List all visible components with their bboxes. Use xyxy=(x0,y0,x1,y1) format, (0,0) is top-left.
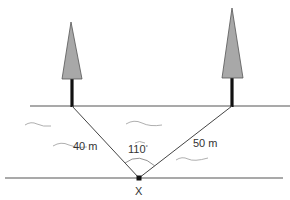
wave-mark xyxy=(176,158,208,161)
right-distance-line xyxy=(139,106,232,178)
angle-arc xyxy=(125,158,155,166)
right-distance-label: 50 m xyxy=(193,137,217,149)
right-tree xyxy=(222,8,243,107)
wave-mark xyxy=(25,123,51,127)
left-tree xyxy=(62,22,82,107)
left-distance-label: 40 m xyxy=(73,140,97,152)
angle-label: 110° xyxy=(128,143,149,155)
angle-value: 110 xyxy=(128,143,146,155)
angle-unit: ° xyxy=(146,144,149,150)
wave-mark xyxy=(126,121,162,125)
left-tree-crown xyxy=(62,22,82,79)
point-x-marker xyxy=(137,176,142,181)
river-tree-diagram: 40 m 50 m 110° X xyxy=(0,0,290,200)
point-x-label: X xyxy=(135,185,143,197)
right-tree-crown xyxy=(222,8,243,78)
